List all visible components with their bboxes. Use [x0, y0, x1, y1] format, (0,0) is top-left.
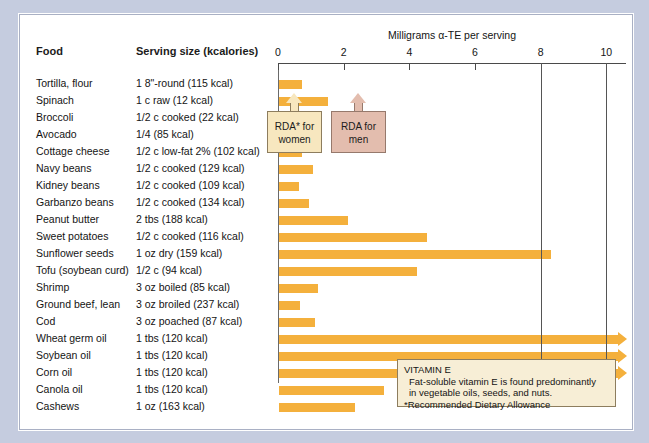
- food-name: Corn oil: [36, 366, 72, 378]
- x-tick-label: 4: [406, 46, 412, 58]
- food-name: Tofu (soybean curd): [36, 264, 129, 276]
- x-tick-label: 10: [600, 46, 612, 58]
- food-name: Cod: [36, 315, 55, 327]
- x-tick-mark: [475, 63, 476, 70]
- food-name: Canola oil: [36, 383, 83, 395]
- bar: [279, 80, 302, 89]
- serving-size: 1/2 c cooked (109 kcal): [136, 179, 245, 191]
- x-tick-mark: [278, 63, 279, 70]
- serving-size: 1/2 c cooked (129 kcal): [136, 162, 245, 174]
- bar: [279, 233, 427, 242]
- serving-size: 1 oz dry (159 kcal): [136, 247, 222, 259]
- bar: [279, 318, 315, 327]
- bar: [279, 335, 618, 344]
- food-name: Wheat germ oil: [36, 332, 107, 344]
- serving-size: 1/2 c cooked (116 kcal): [136, 230, 244, 242]
- x-tick-label: 2: [341, 46, 347, 58]
- x-tick-mark: [409, 63, 410, 70]
- food-name: Sweet potatoes: [36, 230, 108, 242]
- serving-size: 1/2 c (94 kcal): [136, 264, 202, 276]
- rda-men-callout: RDA for men: [331, 111, 386, 153]
- food-name: Cottage cheese: [36, 145, 110, 157]
- note-body-line2: in vegetable oils, seeds, and nuts.: [404, 387, 609, 399]
- rda-women-label-line1: RDA* for: [275, 121, 314, 132]
- food-name: Soybean oil: [36, 349, 91, 361]
- serving-size: 1 tbs (120 kcal): [136, 332, 208, 344]
- bar: [279, 403, 355, 412]
- rda-women-arrow-icon: [286, 93, 303, 111]
- food-name: Ground beef, lean: [36, 298, 120, 310]
- serving-size: 1 tbs (120 kcal): [136, 349, 208, 361]
- food-name: Kidney beans: [36, 179, 100, 191]
- note-title: VITAMIN E: [404, 364, 609, 376]
- food-name: Spinach: [36, 94, 74, 106]
- bar: [279, 267, 417, 276]
- serving-size: 3 oz broiled (237 kcal): [136, 298, 239, 310]
- bar: [279, 284, 318, 293]
- food-name: Peanut butter: [36, 213, 99, 225]
- serving-size: 1 tbs (120 kcal): [136, 366, 208, 378]
- serving-size: 2 tbs (188 kcal): [136, 213, 208, 225]
- serving-size: 1/2 c low-fat 2% (102 kcal): [136, 145, 260, 157]
- rda-men-label-line1: RDA for: [341, 121, 376, 132]
- vitamin-e-note-box: VITAMIN E Fat-soluble vitamin E is found…: [397, 359, 616, 407]
- serving-size: 1/4 (85 kcal): [136, 128, 194, 140]
- food-name: Broccoli: [36, 111, 73, 123]
- serving-size: 1 tbs (120 kcal): [136, 383, 208, 395]
- figure-panel: Food Serving size (kcalories) Tortilla, …: [19, 14, 633, 430]
- serving-size: 3 oz boiled (85 kcal): [136, 281, 230, 293]
- serving-size: 1/2 c cooked (22 kcal): [136, 111, 239, 123]
- rda-reference-line: [541, 63, 542, 383]
- x-tick-label: 6: [472, 46, 478, 58]
- x-tick-label: 0: [275, 46, 281, 58]
- note-body-line1: Fat-soluble vitamin E is found predomina…: [404, 376, 609, 388]
- serving-size: 1/2 c cooked (134 kcal): [136, 196, 245, 208]
- bar: [279, 250, 551, 259]
- axis-title-x: Milligrams α-TE per serving: [278, 29, 626, 41]
- food-name: Cashews: [36, 400, 79, 412]
- serving-size: 1 c raw (12 kcal): [136, 94, 213, 106]
- rda-men-label-line2: men: [349, 134, 368, 145]
- bar: [279, 301, 300, 310]
- x-axis-line: [278, 63, 626, 64]
- rda-women-callout: RDA* for women: [267, 111, 322, 153]
- bar: [279, 386, 384, 395]
- food-name: Tortilla, flour: [36, 77, 93, 89]
- x-tick-label: 8: [538, 46, 544, 58]
- x-tick-mark: [344, 63, 345, 70]
- food-name: Garbanzo beans: [36, 196, 114, 208]
- bar: [279, 199, 309, 208]
- bar: [279, 182, 299, 191]
- bar: [279, 165, 313, 174]
- food-name: Navy beans: [36, 162, 91, 174]
- rda-women-label-line2: women: [278, 134, 310, 145]
- rda-men-arrow-icon: [350, 93, 367, 111]
- rda-reference-line: [606, 63, 607, 383]
- note-footnote: *Recommended Dietary Allowance: [404, 399, 609, 411]
- bar: [279, 216, 348, 225]
- food-name: Avocado: [36, 128, 77, 140]
- serving-size: 1 oz (163 kcal): [136, 400, 205, 412]
- food-name: Shrimp: [36, 281, 69, 293]
- serving-size: 1 8"-round (115 kcal): [136, 77, 233, 89]
- serving-size: 3 oz poached (87 kcal): [136, 315, 242, 327]
- food-name: Sunflower seeds: [36, 247, 114, 259]
